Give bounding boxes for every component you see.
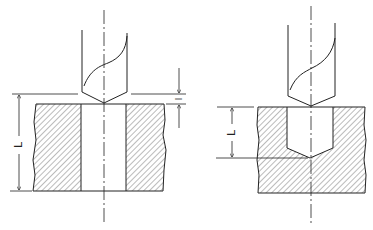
dimension-l-approach: l: [174, 68, 184, 128]
figure-blind-hole: L: [216, 6, 366, 225]
workpiece-section: [257, 107, 366, 193]
label-L: L: [225, 129, 238, 136]
dimension-L-blind: L: [225, 108, 238, 157]
drilling-diagram: L l L: [0, 0, 373, 230]
drill-bit: [288, 23, 335, 106]
label-L: L: [12, 141, 25, 148]
drill-bit: [82, 30, 127, 103]
figure-through-hole: L l: [10, 10, 186, 225]
label-l: l: [174, 98, 184, 101]
dimension-L-through: L: [12, 95, 25, 190]
workpiece-right-section: [126, 104, 166, 191]
workpiece-left-section: [33, 104, 81, 191]
